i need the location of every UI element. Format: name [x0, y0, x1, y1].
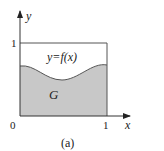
- origin-label: 0: [10, 119, 16, 131]
- figure-caption: (a): [61, 136, 74, 150]
- y-tick-label: 1: [11, 37, 17, 49]
- function-label: y=f(x): [46, 50, 77, 64]
- x-axis-label: x: [124, 118, 131, 132]
- diagram-canvas: y 1 y=f(x) G 0 1 x (a): [0, 0, 164, 151]
- x-tick-label: 1: [103, 119, 109, 131]
- region-g-fill: [20, 65, 107, 116]
- y-axis-label: y: [25, 9, 32, 23]
- region-label: G: [49, 87, 59, 102]
